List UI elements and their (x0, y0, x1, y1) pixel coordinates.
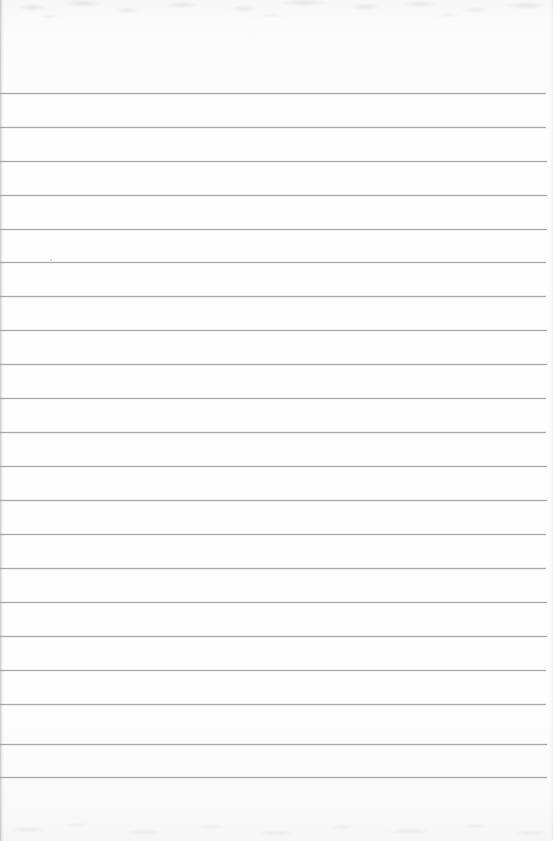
ruled-line (0, 568, 546, 569)
ruled-line (0, 330, 547, 331)
ruled-line (0, 93, 546, 94)
ruled-line (0, 500, 547, 501)
ruled-line (0, 364, 547, 365)
ruled-line (0, 602, 547, 603)
ruled-line (0, 161, 547, 162)
ruled-lines-group (0, 0, 553, 841)
ruled-line (0, 704, 546, 705)
scanned-page (0, 0, 553, 841)
ruled-line (0, 636, 547, 637)
ruled-line (0, 127, 546, 128)
ruled-line (0, 534, 546, 535)
ruled-line (0, 432, 546, 433)
ruled-line (0, 466, 547, 467)
ruled-line (0, 398, 546, 399)
ruled-line (0, 670, 546, 671)
ruled-line (0, 195, 547, 196)
ruled-line (0, 744, 547, 745)
ruled-line (0, 262, 546, 263)
ruled-line (0, 777, 547, 778)
ruled-line (0, 296, 546, 297)
ruled-line (0, 229, 547, 230)
